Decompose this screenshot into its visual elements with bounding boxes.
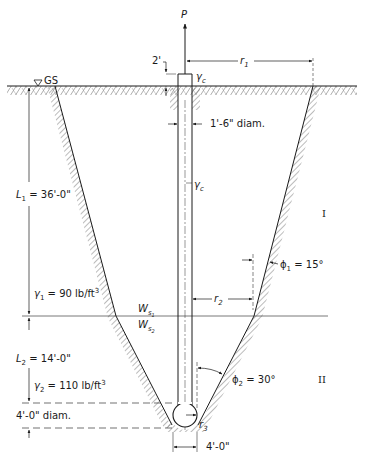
shaft-collar-hatch xyxy=(170,88,178,110)
L1-label: L1 = 36'-0" xyxy=(16,189,71,203)
bell-diam-label: 4'-0" diam. xyxy=(16,410,71,421)
gamma1-label: γ1 = 90 lb/ft3 xyxy=(34,287,99,302)
L2-label: L2 = 14'-0" xyxy=(16,353,71,367)
gs-label: GS xyxy=(44,75,58,86)
shaft-diameter-dimension: 1'-6" diam. xyxy=(168,118,265,129)
base-width-label: 4'-0" xyxy=(206,441,230,452)
layer-1-label: I xyxy=(322,208,326,219)
shaft-diam-label: 1'-6" diam. xyxy=(210,118,265,129)
base-width-dimension: 4'-0" xyxy=(173,432,230,452)
r2-dimension: r2 xyxy=(193,291,252,307)
phi2-label: ϕ2 = 30° xyxy=(232,374,276,388)
layer-2-label: II xyxy=(318,374,326,385)
load-arrow: P xyxy=(181,9,188,74)
gamma2-label: γ2 = 110 lb/ft3 xyxy=(34,379,106,394)
shaft-collar-hatch-right xyxy=(192,88,200,110)
pier-diagram: GS P 2' γc r1 xyxy=(0,0,369,461)
ground-surface-marker: GS xyxy=(34,75,58,86)
projection-label: 2' xyxy=(152,55,161,66)
ws2-label: Ws2 xyxy=(138,319,155,334)
bell-diameter-dimension: 4'-0" diam. xyxy=(16,403,175,438)
phi1-label: ϕ1 = 15° xyxy=(280,259,324,273)
gamma-c-shaft-label: γc xyxy=(194,179,204,193)
phi1-annotation: ϕ1 = 15° xyxy=(242,254,324,310)
gamma-c-top-label: γc xyxy=(196,71,206,85)
ground-surface xyxy=(7,86,357,95)
left-cone-wall xyxy=(47,86,172,428)
pier-shaft xyxy=(178,74,192,430)
load-label: P xyxy=(181,9,188,20)
r1-dimension: r1 xyxy=(187,53,313,86)
phi2-annotation: ϕ2 = 30° xyxy=(197,362,276,408)
